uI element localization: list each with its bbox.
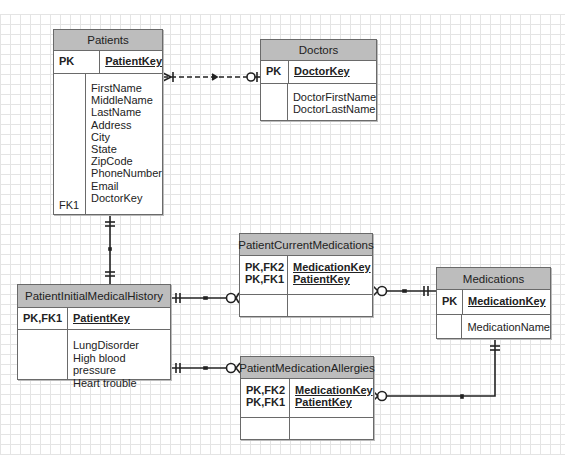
attribute: Heart trouble <box>73 377 170 390</box>
entity-title: PatientInitialMedicalHistory <box>18 285 170 308</box>
attribute: Email <box>91 180 162 192</box>
rel-history-medication-allergies[interactable] <box>170 363 240 373</box>
primary-key-field: PatientKey <box>73 312 170 324</box>
attribute: MiddleName <box>91 94 162 106</box>
primary-key-field: PatientKey <box>105 55 162 67</box>
rel-medications-medication-allergies[interactable] <box>373 338 500 401</box>
primary-key-field: PatientKey <box>293 273 372 285</box>
key-label: PK,FK1 <box>18 308 68 329</box>
primary-key-field: MedicationKey <box>295 384 373 396</box>
attribute: FirstName <box>91 82 162 94</box>
attribute: DoctorFirstName <box>293 91 376 103</box>
key-label: PK,FK2 <box>245 261 287 273</box>
key-label: PK <box>261 61 289 83</box>
key-label: PK <box>437 290 463 314</box>
attribute: DoctorLastName <box>293 103 376 115</box>
rel-patients-history[interactable] <box>105 214 115 284</box>
entity-patients[interactable]: Patients PK PatientKey FK1 FirstName Mid… <box>53 29 163 215</box>
fk-label: FK1 <box>59 199 79 211</box>
attribute: PhoneNumber <box>91 167 162 179</box>
entity-medications[interactable]: Medications PK MedicationKey MedicationN… <box>436 267 551 339</box>
rel-medications-current-medications[interactable] <box>373 286 436 296</box>
attribute: LungDisorder <box>73 339 170 352</box>
entity-title: Doctors <box>261 40 376 61</box>
attribute: State <box>91 143 162 155</box>
attribute: DoctorKey <box>91 192 162 204</box>
key-label: PK,FK2 <box>246 384 289 396</box>
entity-title: PatientMedicationAllergies <box>241 357 373 379</box>
attribute: LastName <box>91 106 162 118</box>
primary-key-field: MedicationKey <box>468 295 550 307</box>
key-label: PK,FK1 <box>246 396 289 408</box>
attribute: MedicationName <box>467 321 550 333</box>
primary-key-field: PatientKey <box>295 396 373 408</box>
attribute: City <box>91 131 162 143</box>
entity-doctors[interactable]: Doctors PK DoctorKey DoctorFirstName Doc… <box>260 39 377 121</box>
rel-history-current-medications[interactable] <box>170 293 239 303</box>
entity-patient-medication-allergies[interactable]: PatientMedicationAllergies PK,FK2 PK,FK1… <box>240 356 374 440</box>
key-label: PK,FK1 <box>245 273 287 285</box>
primary-key-field: MedicationKey <box>293 261 372 273</box>
entity-title: Patients <box>54 30 162 51</box>
attribute: Address <box>91 119 162 131</box>
key-label: PK <box>54 51 100 73</box>
entity-patient-initial-medical-history[interactable]: PatientInitialMedicalHistory PK,FK1 Pati… <box>17 284 171 380</box>
primary-key-field: DoctorKey <box>294 65 376 77</box>
entity-patient-current-medications[interactable]: PatientCurrentMedications PK,FK2 PK,FK1 … <box>239 233 373 317</box>
attribute: ZipCode <box>91 155 162 167</box>
entity-title: Medications <box>437 268 550 290</box>
rel-patients-doctors[interactable] <box>163 72 260 82</box>
attribute: High blood pressure <box>73 352 170 377</box>
entity-title: PatientCurrentMedications <box>240 234 372 256</box>
